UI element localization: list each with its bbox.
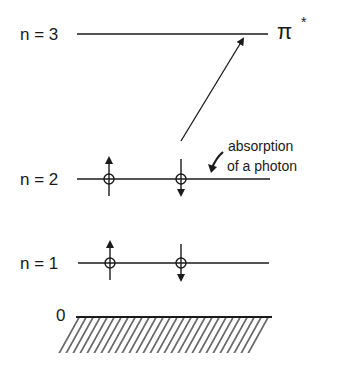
curved-arrow-icon xyxy=(212,152,223,168)
electron-spin-up-n1 xyxy=(105,242,115,280)
level-n3-label: n = 3 xyxy=(20,25,58,44)
transition-arrow xyxy=(181,39,243,141)
level-n1: n = 1 xyxy=(20,242,269,280)
electron-spin-down-n2 xyxy=(176,159,186,195)
hatched-region xyxy=(56,317,272,353)
level-n1-label: n = 1 xyxy=(20,254,58,273)
zero-label: 0 xyxy=(56,306,65,325)
energy-level-diagram: n = 3 π * n = 2 absorption of a photon n… xyxy=(0,0,351,369)
level-n3: n = 3 π * xyxy=(20,14,307,44)
pi-star-asterisk: * xyxy=(301,14,307,30)
level-n2-label: n = 2 xyxy=(20,170,58,189)
annotation-line2: of a photon xyxy=(227,158,297,174)
annotation-line1: absorption xyxy=(228,138,293,154)
pi-star-label: π xyxy=(277,19,292,44)
absorption-annotation: absorption of a photon xyxy=(208,138,297,174)
electron-spin-down-n1 xyxy=(176,244,186,280)
electron-spin-up-n2 xyxy=(104,158,114,196)
zero-baseline: 0 xyxy=(56,306,272,353)
